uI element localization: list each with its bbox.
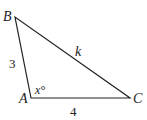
- vertex-c-label: C: [133, 91, 143, 106]
- side-ab-label: 3: [9, 56, 16, 71]
- side-ac-label: 4: [70, 104, 77, 119]
- vertex-a-label: A: [18, 91, 28, 106]
- triangle-abc: [15, 17, 130, 98]
- triangle-diagram: B A C 3 4 k x°: [0, 0, 147, 120]
- side-bc-label: k: [75, 44, 82, 59]
- angle-a-label: x°: [34, 83, 45, 97]
- vertex-b-label: B: [3, 9, 12, 24]
